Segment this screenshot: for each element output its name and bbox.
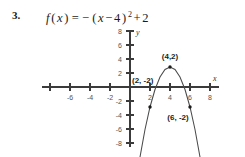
y-tick-label-neg6: -6 (116, 126, 122, 133)
equation-token-equals: = (70, 11, 80, 25)
coordinate-plane-svg: -6 -4 -2 2 4 6 8 8 6 4 2 -2 -4 -6 -8 y x… (0, 26, 245, 157)
x-tick-label-6: 6 (188, 94, 192, 101)
x-tick-label-neg6: -6 (67, 94, 73, 101)
y-tick-label-neg2: -2 (116, 98, 122, 105)
point-label-6-neg2: (6, -2) (167, 113, 189, 122)
problem-equation: f(x)=−(x−4)2+2 (46, 7, 149, 26)
x-axis-label: x (212, 74, 217, 83)
point-label-4-2: (4,2) (162, 52, 179, 61)
equation-token-two: 2 (142, 11, 148, 25)
equation-token-four: 4 (114, 11, 120, 25)
equation-token-lparen: ( (50, 11, 57, 25)
y-axis-label: y (135, 28, 140, 37)
equation-token-x: x (57, 11, 63, 25)
equation-token-negate: − (80, 11, 90, 25)
equation-token-rparen2: ) (121, 11, 128, 25)
x-tick-label-8: 8 (208, 94, 212, 101)
x-tick-label-neg4: -4 (87, 94, 93, 101)
y-tick-label-neg4: -4 (116, 112, 122, 119)
point-label-2-neg2: (2, -2) (132, 76, 154, 85)
point-marker-4-2 (168, 65, 171, 68)
equation-token-plus: + (132, 11, 142, 25)
y-tick-label-2: 2 (118, 70, 122, 77)
x-tick-label-neg2: -2 (107, 94, 113, 101)
equation-token-lparen2: ( (91, 11, 98, 25)
point-marker-6-neg2 (188, 105, 191, 108)
y-tick-label-8: 8 (118, 28, 122, 35)
y-tick-label-6: 6 (118, 42, 122, 49)
x-tick-label-4: 4 (168, 94, 172, 101)
x-tick-label-2: 2 (148, 94, 152, 101)
y-tick-label-neg8: -8 (116, 140, 122, 147)
point-marker-2-neg2 (148, 105, 151, 108)
equation-token-x2: x (98, 11, 104, 25)
y-tick-label-4: 4 (118, 56, 122, 63)
parabola-graph: -6 -4 -2 2 4 6 8 8 6 4 2 -2 -4 -6 -8 y x… (0, 26, 245, 157)
equation-token-minus: − (104, 11, 114, 25)
problem-number: 3. (12, 8, 20, 22)
